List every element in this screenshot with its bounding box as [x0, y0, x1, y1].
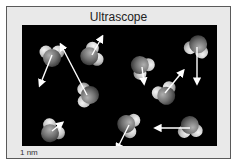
- water-molecule: [40, 46, 65, 86]
- scale-label: 1 nm: [20, 148, 38, 157]
- oxygen-atom: [37, 121, 62, 146]
- window-title: Ultrascope: [7, 10, 230, 24]
- oxygen-atom: [127, 52, 152, 77]
- ultrascope-window: Ultrascope 1 nm: [6, 6, 231, 159]
- water-molecule: [35, 116, 68, 146]
- water-molecule: [125, 50, 158, 83]
- water-molecule: [114, 109, 142, 146]
- oxygen-atom: [43, 49, 61, 67]
- water-molecule: [182, 31, 213, 83]
- water-molecule: [150, 71, 183, 109]
- molecule-scene: [22, 25, 217, 146]
- water-molecule: [156, 115, 203, 138]
- microscope-viewport: [22, 25, 217, 146]
- water-molecule: [76, 37, 106, 71]
